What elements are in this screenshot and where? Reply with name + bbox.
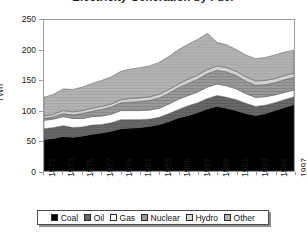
chart-title: Electricity Generation by Fuel: [0, 0, 306, 3]
x-tick-mark: [72, 172, 73, 175]
chart-legend: CoalOilGasNuclearHydroOther: [37, 210, 269, 225]
legend-label: Other: [234, 213, 255, 223]
x-tick-mark: [169, 172, 170, 175]
x-tick-mark: [295, 172, 296, 175]
plot-area: [43, 19, 295, 172]
x-tick-mark: [198, 172, 199, 175]
x-tick-label: 1987: [202, 158, 212, 177]
x-tick-mark: [150, 172, 151, 175]
legend-item-hydro[interactable]: Hydro: [186, 213, 218, 223]
legend-label: Gas: [120, 213, 136, 223]
x-tick-mark: [285, 172, 286, 175]
x-tick-mark: [62, 172, 63, 175]
legend-item-other[interactable]: Other: [224, 213, 255, 223]
stacked-area-svg: [44, 20, 294, 171]
x-axis: 1971197319751977197919811983198519871989…: [43, 172, 295, 212]
x-tick-mark: [237, 172, 238, 175]
x-tick-mark: [121, 172, 122, 175]
x-tick-label: 1997: [299, 158, 307, 177]
y-axis: TWh 050100150200250: [0, 0, 43, 180]
x-tick-mark: [266, 172, 267, 175]
x-tick-mark: [208, 172, 209, 175]
x-tick-label: 1989: [221, 158, 231, 177]
legend-label: Oil: [94, 213, 104, 223]
legend-swatch-oil: [84, 214, 91, 221]
legend-swatch-coal: [51, 214, 58, 221]
x-tick-label: 1979: [124, 158, 134, 177]
y-tick-label: 250: [22, 14, 36, 24]
x-tick-label: 1995: [279, 158, 289, 177]
x-tick-label: 1971: [47, 158, 57, 177]
x-tick-label: 1993: [260, 158, 270, 177]
x-tick-mark: [276, 172, 277, 175]
x-tick-label: 1991: [240, 158, 250, 177]
legend-swatch-hydro: [186, 214, 193, 221]
legend-swatch-gas: [110, 214, 117, 221]
legend-label: Coal: [61, 213, 78, 223]
x-tick-label: 1977: [105, 158, 115, 177]
legend-item-nuclear[interactable]: Nuclear: [141, 213, 180, 223]
legend-label: Hydro: [195, 213, 218, 223]
y-axis-title: TWh: [0, 84, 5, 102]
chart-root: Electricity Generation by Fuel TWh 05010…: [0, 0, 306, 238]
x-tick-mark: [53, 172, 54, 175]
x-tick-mark: [217, 172, 218, 175]
x-tick-mark: [159, 172, 160, 175]
y-tick-label: 50: [27, 136, 36, 146]
y-tick-label: 200: [22, 45, 36, 55]
y-tick-label: 100: [22, 106, 36, 116]
x-tick-mark: [82, 172, 83, 175]
legend-swatch-other: [224, 214, 231, 221]
legend-item-oil[interactable]: Oil: [84, 213, 104, 223]
y-tick-label: 0: [31, 167, 36, 177]
x-tick-label: 1981: [143, 158, 153, 177]
x-tick-label: 1973: [66, 158, 76, 177]
x-tick-label: 1975: [85, 158, 95, 177]
x-tick-mark: [111, 172, 112, 175]
y-tick-label: 150: [22, 75, 36, 85]
legend-item-gas[interactable]: Gas: [110, 213, 135, 223]
x-tick-mark: [256, 172, 257, 175]
x-tick-mark: [43, 172, 44, 175]
legend-item-coal[interactable]: Coal: [51, 213, 78, 223]
x-tick-label: 1985: [182, 158, 192, 177]
x-tick-mark: [101, 172, 102, 175]
x-tick-mark: [140, 172, 141, 175]
x-tick-mark: [91, 172, 92, 175]
x-tick-mark: [247, 172, 248, 175]
x-tick-mark: [130, 172, 131, 175]
x-tick-label: 1983: [163, 158, 173, 177]
x-tick-mark: [188, 172, 189, 175]
x-tick-mark: [179, 172, 180, 175]
legend-swatch-nuclear: [141, 214, 148, 221]
legend-label: Nuclear: [151, 213, 180, 223]
x-tick-mark: [227, 172, 228, 175]
